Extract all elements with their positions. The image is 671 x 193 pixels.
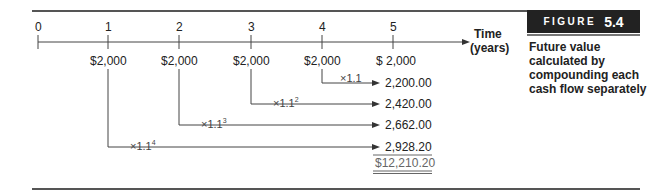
- future-value-2: 2,420.00: [385, 98, 432, 110]
- figure-label: FIGURE 5.4: [527, 10, 640, 33]
- total-future-value: $12,210.20: [375, 157, 435, 169]
- future-value-3: 2,662.00: [385, 119, 432, 131]
- multiplier-1: ×1.1: [340, 73, 362, 84]
- cash-flow-2: $2,000: [161, 55, 198, 67]
- figure-caption: Future value calculated by compounding e…: [529, 40, 649, 96]
- future-value-4: 2,928.20: [385, 141, 432, 153]
- tick-label-2: 2: [176, 21, 183, 33]
- multiplier-3: ×1.13: [201, 115, 227, 130]
- tick-label-3: 3: [248, 21, 255, 33]
- cash-flow-1: $2,000: [90, 55, 127, 67]
- cash-flow-4: $2,000: [304, 55, 341, 67]
- axis-label-years: (years): [470, 42, 509, 54]
- figure-underline: [527, 34, 640, 36]
- cash-flow-5: $ 2,000: [376, 55, 416, 67]
- figure-word: FIGURE: [543, 16, 596, 27]
- figure-number: 5.4: [604, 14, 623, 30]
- tick-label-5: 5: [390, 21, 397, 33]
- cash-flow-3: $2,000: [233, 55, 270, 67]
- multiplier-4: ×1.14: [130, 137, 156, 152]
- axis-label-time: Time: [474, 28, 502, 40]
- tick-label-1: 1: [105, 21, 112, 33]
- multiplier-2: ×1.12: [273, 94, 299, 109]
- future-value-1: 2,200.00: [385, 77, 432, 89]
- timeline-diagram: [0, 0, 520, 193]
- tick-label-4: 4: [319, 21, 326, 33]
- tick-label-0: 0: [35, 21, 42, 33]
